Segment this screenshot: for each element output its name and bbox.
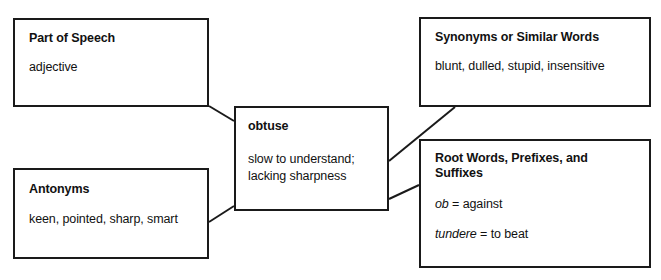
term-definition-line-2: lacking sharpness <box>248 168 375 185</box>
synonyms-title: Synonyms or Similar Words <box>435 30 635 45</box>
node-synonyms: Synonyms or Similar Words blunt, dulled,… <box>419 17 651 107</box>
node-term-obtuse: obtuse slow to understand; lacking sharp… <box>234 106 389 211</box>
term-definition: slow to understand; lacking sharpness <box>248 151 375 185</box>
root-entry-1-equals: = against <box>452 197 502 211</box>
part-of-speech-body: adjective <box>29 59 193 75</box>
node-root-words: Root Words, Prefixes, and Suffixes ob = … <box>419 139 651 268</box>
synonyms-body: blunt, dulled, stupid, insensitive <box>435 58 635 74</box>
root-words-title: Root Words, Prefixes, and Suffixes <box>435 151 610 181</box>
antonyms-body: keen, pointed, sharp, smart <box>29 211 193 227</box>
term-title: obtuse <box>248 119 375 134</box>
connector-antonyms-to-term <box>209 206 234 222</box>
root-entry-1: ob = against <box>435 196 635 212</box>
root-entry-2-term: tundere <box>435 227 477 241</box>
node-part-of-speech: Part of Speech adjective <box>13 18 209 107</box>
connector-part-of-speech-to-term <box>209 106 234 121</box>
root-entry-2-equals: = to beat <box>480 227 528 241</box>
root-entry-2: tundere = to beat <box>435 226 635 242</box>
part-of-speech-title: Part of Speech <box>29 31 193 46</box>
word-map-diagram: Part of Speech adjective Synonyms or Sim… <box>0 0 661 280</box>
connector-term-to-roots <box>389 185 419 199</box>
root-entry-1-term: ob <box>435 197 449 211</box>
term-definition-line-1: slow to understand; <box>248 151 375 168</box>
antonyms-title: Antonyms <box>29 182 193 197</box>
node-antonyms: Antonyms keen, pointed, sharp, smart <box>13 168 209 259</box>
